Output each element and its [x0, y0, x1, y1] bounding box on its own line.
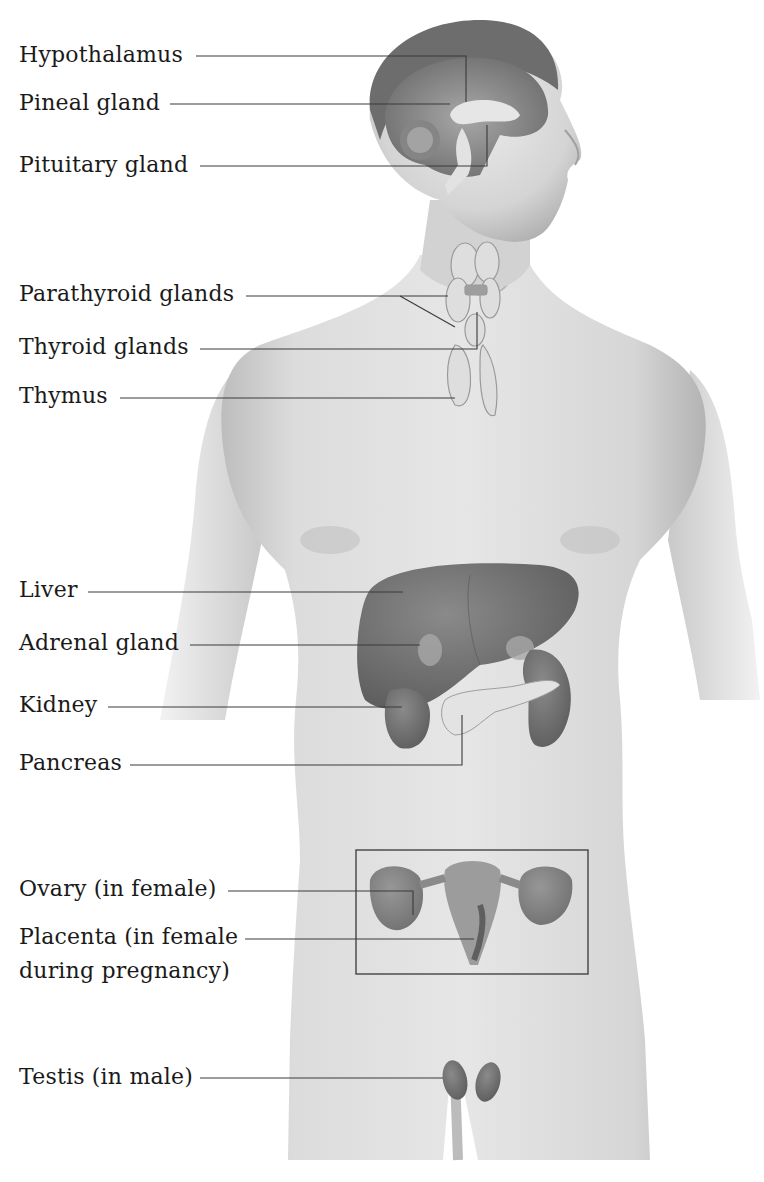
label-pituitary-gland: Pituitary gland [19, 152, 188, 178]
label-adrenal-gland: Adrenal gland [19, 630, 179, 656]
label-pancreas: Pancreas [19, 750, 122, 776]
label-placenta: Placenta (in female during pregnancy) [19, 920, 259, 988]
endocrine-diagram: Hypothalamus Pineal gland Pituitary glan… [0, 0, 764, 1182]
label-hypothalamus: Hypothalamus [19, 42, 183, 68]
label-testis: Testis (in male) [19, 1064, 193, 1090]
head [370, 20, 582, 242]
label-thyroid-glands: Thyroid glands [19, 334, 189, 360]
label-liver: Liver [19, 577, 78, 603]
label-parathyroid-glands: Parathyroid glands [19, 281, 234, 307]
label-kidney: Kidney [19, 692, 97, 718]
left-kidney [385, 688, 430, 749]
label-ovary: Ovary (in female) [19, 876, 216, 902]
label-pineal-gland: Pineal gland [19, 90, 160, 116]
label-thymus: Thymus [19, 383, 108, 409]
